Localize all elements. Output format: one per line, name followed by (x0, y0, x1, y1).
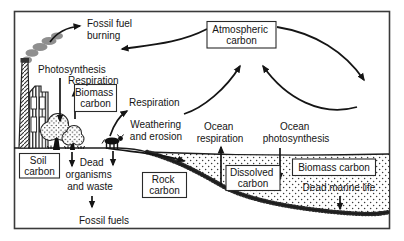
svg-text:Biomass carbon: Biomass carbon (75, 87, 116, 109)
diagram-svg: Atmospheric carbon Biomass carbon Soil c… (0, 0, 404, 241)
dissolved-carbon-box: Dissolved carbon (226, 166, 280, 191)
soil-carbon-line2: carbon (24, 166, 55, 177)
label-fossil-fuels: Fossil fuels (79, 215, 129, 226)
rock-carbon-line1: Rock (152, 174, 176, 185)
label-respiration-animals: Respiration (129, 97, 180, 108)
soil-carbon-line1: Soil (30, 155, 47, 166)
biomass-carbon-land-box: Biomass carbon (75, 85, 117, 112)
atmospheric-carbon-line1: Atmospheric (212, 24, 268, 35)
soil-carbon-box: Soil carbon (20, 154, 60, 179)
atmospheric-carbon-box: Atmospheric carbon (207, 22, 276, 49)
label-photosynthesis: Photosynthesis (38, 64, 106, 75)
atmospheric-carbon-line2: carbon (226, 35, 257, 46)
biomass-carbon-ocean-label: Biomass carbon (298, 162, 370, 173)
dissolved-carbon-line1: Dissolved (230, 167, 273, 178)
svg-text:Biomass carbon: Biomass carbon (298, 162, 370, 173)
biomass-carbon-land-line1: Biomass (75, 87, 113, 98)
smokestack-cap (21, 58, 30, 63)
label-dead-marine-life: Dead marine life (303, 182, 376, 193)
rock-carbon-line2: carbon (149, 185, 180, 196)
label-weathering-erosion: Weathering and erosion (130, 119, 184, 142)
biomass-carbon-land-line2: carbon (80, 98, 111, 109)
carbon-cycle-figure: Atmospheric carbon Biomass carbon Soil c… (0, 0, 404, 241)
biomass-carbon-ocean-box: Biomass carbon (293, 159, 376, 176)
label-respiration-trees: Respiration (68, 75, 119, 86)
dissolved-carbon-line2: carbon (238, 178, 269, 189)
svg-text:Rock carbon: Rock carbon (149, 174, 180, 196)
rock-carbon-box: Rock carbon (143, 173, 187, 198)
